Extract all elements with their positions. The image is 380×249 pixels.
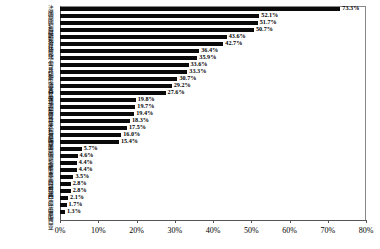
bar[interactable]	[60, 175, 73, 179]
bar[interactable]	[60, 112, 134, 116]
bar[interactable]	[60, 161, 77, 165]
x-tick-label: 10%	[91, 225, 106, 236]
bar[interactable]	[60, 42, 223, 46]
bar-row: 17.5%	[0, 125, 380, 132]
bar[interactable]	[60, 56, 197, 60]
bar-row: 1.3%	[0, 209, 380, 216]
bar[interactable]	[60, 154, 78, 158]
bar-row: 29.2%	[0, 83, 380, 90]
bar-value-label: 42.7%	[225, 38, 242, 47]
bar[interactable]	[60, 7, 340, 11]
x-tick-mark	[366, 220, 367, 223]
x-tick-label: 60%	[282, 225, 297, 236]
bar-row: 43.6%	[0, 34, 380, 41]
x-tick-label: 80%	[359, 225, 374, 236]
bar-row: 2.8%	[0, 188, 380, 195]
bar[interactable]	[60, 210, 65, 214]
bar[interactable]	[60, 84, 172, 88]
x-tick-label: 30%	[167, 225, 182, 236]
x-tick-mark	[98, 220, 99, 223]
x-tick-label: 0%	[55, 225, 66, 236]
x-tick-label: 70%	[320, 225, 335, 236]
bar[interactable]	[60, 49, 199, 53]
bar-value-label: 1.3%	[67, 206, 81, 215]
bar-row: 4.6%	[0, 153, 380, 160]
bar-row: 3.5%	[0, 174, 380, 181]
bar[interactable]	[60, 133, 121, 137]
x-tick-mark	[290, 220, 291, 223]
bar[interactable]	[60, 28, 254, 32]
bar[interactable]	[60, 119, 130, 123]
bar-value-label: 27.6%	[168, 87, 185, 96]
bar-row: 19.4%	[0, 111, 380, 118]
bar-chart: 73.3%52.1%51.7%50.7%43.6%42.7%36.4%35.9%…	[0, 0, 380, 249]
x-tick-mark	[213, 220, 214, 223]
bar-row: 19.8%	[0, 97, 380, 104]
category-label: 中国	[48, 208, 54, 219]
bar[interactable]	[60, 98, 136, 102]
bar-row: 36.4%	[0, 48, 380, 55]
x-tick-label: 50%	[244, 225, 259, 236]
bar[interactable]	[60, 21, 258, 25]
bar[interactable]	[60, 105, 135, 109]
bar-row: 15.4%	[0, 139, 380, 146]
bar[interactable]	[60, 196, 68, 200]
bar[interactable]	[60, 77, 177, 81]
x-tick-mark	[175, 220, 176, 223]
bar[interactable]	[60, 70, 187, 74]
bar[interactable]	[60, 182, 71, 186]
bar-row: 16.0%	[0, 132, 380, 139]
bar-row: 50.7%	[0, 27, 380, 34]
x-tick-label: 20%	[129, 225, 144, 236]
bar-row: 51.7%	[0, 20, 380, 27]
bar[interactable]	[60, 35, 227, 39]
bar[interactable]	[60, 147, 82, 151]
bar-row: 1.7%	[0, 202, 380, 209]
bar-row: 4.4%	[0, 167, 380, 174]
x-tick-label: 40%	[206, 225, 221, 236]
bar[interactable]	[60, 203, 67, 207]
bar-row: 52.1%	[0, 13, 380, 20]
bar-row: 73.3%	[0, 6, 380, 13]
bar[interactable]	[60, 126, 127, 130]
bar-row: 42.7%	[0, 41, 380, 48]
bar-row: 5.7%	[0, 146, 380, 153]
x-tick-mark	[60, 220, 61, 223]
bar-value-label: 73.3%	[342, 3, 359, 12]
bar-row: 27.6%	[0, 90, 380, 97]
bar-value-label: 15.4%	[121, 136, 138, 145]
x-tick-mark	[251, 220, 252, 223]
bar[interactable]	[60, 168, 77, 172]
bar-row: 19.7%	[0, 104, 380, 111]
x-tick-mark	[137, 220, 138, 223]
bar-row: 18.3%	[0, 118, 380, 125]
bar[interactable]	[60, 14, 259, 18]
bar[interactable]	[60, 63, 189, 67]
bar-row: 2.1%	[0, 195, 380, 202]
bar-row: 2.8%	[0, 181, 380, 188]
bar-row: 4.4%	[0, 160, 380, 167]
x-tick-mark	[328, 220, 329, 223]
bar-value-label: 50.7%	[256, 24, 273, 33]
